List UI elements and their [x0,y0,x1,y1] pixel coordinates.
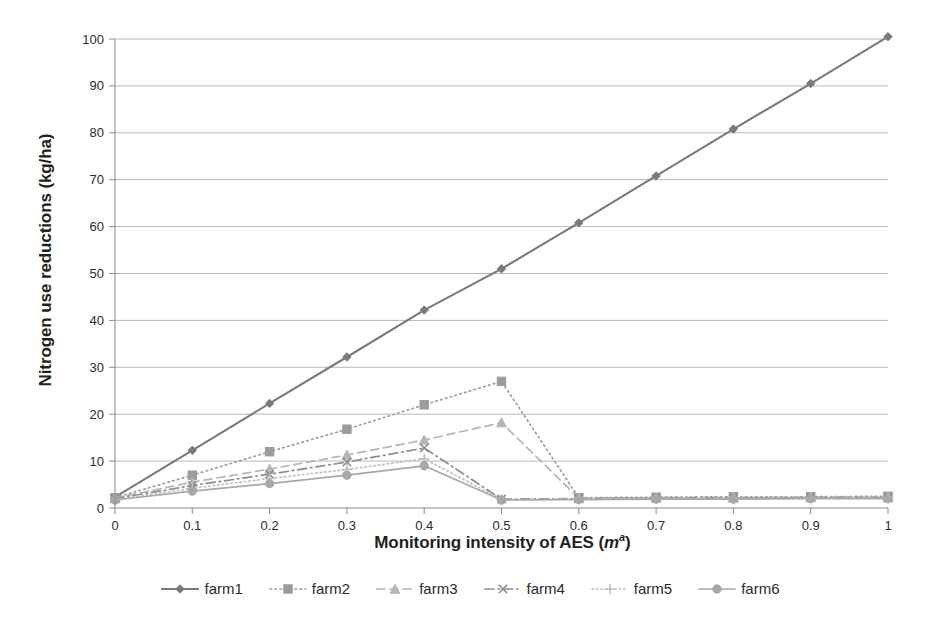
y-tick-label: 40 [90,313,104,328]
data-point-marker [343,471,351,479]
data-point-marker [884,494,892,502]
legend-swatch-farm1 [161,582,199,596]
x-tick-label: 1 [884,518,891,530]
data-point-marker [343,425,351,433]
x-tick-label: 0.8 [724,518,742,530]
data-point-marker [188,487,196,495]
legend-label: farm2 [312,580,350,597]
data-point-marker [605,583,615,593]
y-tick-label: 10 [90,454,104,469]
data-point-marker [420,462,428,470]
legend-item-farm5[interactable]: farm5 [591,580,672,597]
data-series-group [110,32,893,504]
gridlines [115,39,888,461]
data-point-marker [497,418,507,427]
x-tick-label: 0.4 [415,518,433,530]
series-farm3 [110,418,893,503]
legend-item-farm3[interactable]: farm3 [376,580,457,597]
y-tick-label: 80 [90,125,104,140]
legend-label: farm4 [527,580,565,597]
x-tick-label: 0 [111,518,118,530]
legend-swatch-farm4 [484,582,522,596]
legend-item-farm4[interactable]: farm4 [484,580,565,597]
x-tick-label: 0.2 [261,518,279,530]
y-tick-label: 50 [90,266,104,281]
data-point-marker [284,584,292,592]
x-tick-label: 0.6 [570,518,588,530]
y-tick-label: 70 [90,172,104,187]
legend-swatch-farm6 [698,582,736,596]
series-line [115,448,888,499]
x-axis-title-container: Monitoring intensity of AES (ma) [115,531,890,553]
legend-label: farm1 [204,580,242,597]
data-point-marker [176,584,184,592]
legend-item-farm1[interactable]: farm1 [161,580,242,597]
series-farm1 [111,32,892,501]
data-point-marker [713,584,721,592]
x-tick-label: 0.1 [183,518,201,530]
legend-item-farm2[interactable]: farm2 [269,580,350,597]
x-tick-label: 0.3 [338,518,356,530]
y-tick-label: 0 [97,501,104,516]
x-tick-label: 0.7 [647,518,665,530]
legend-label: farm6 [741,580,779,597]
y-tick-label: 90 [90,78,104,93]
y-tick-label: 100 [82,32,104,47]
x-tick-label: 0.5 [492,518,510,530]
data-point-marker [807,494,815,502]
x-axis-title: Monitoring intensity of AES (ma) [374,533,630,552]
legend-label: farm3 [419,580,457,597]
data-point-marker [265,479,273,487]
legend-swatch-farm2 [269,582,307,596]
data-point-marker [265,448,273,456]
data-point-marker [652,495,660,503]
data-point-marker [420,401,428,409]
y-tick-label: 60 [90,219,104,234]
data-point-marker [497,377,505,385]
legend-swatch-farm3 [376,582,414,596]
plot-area: 0102030405060708090100 00.10.20.30.40.50… [0,0,941,530]
data-point-marker [497,496,505,504]
chart-legend: farm1farm2farm3farm4farm5farm6 [0,580,941,597]
legend-label: farm5 [634,580,672,597]
x-tick-label: 0.9 [802,518,820,530]
legend-item-farm6[interactable]: farm6 [698,580,779,597]
chart-figure: Nitrogen use reductions (kg/ha) 01020304… [0,0,941,644]
y-axis-ticks: 0102030405060708090100 [82,32,115,516]
data-point-marker [575,495,583,503]
legend-swatch-farm5 [591,582,629,596]
data-point-marker [729,495,737,503]
x-axis-ticks: 00.10.20.30.40.50.60.70.80.91 [111,508,891,530]
y-tick-label: 20 [90,407,104,422]
y-tick-label: 30 [90,360,104,375]
